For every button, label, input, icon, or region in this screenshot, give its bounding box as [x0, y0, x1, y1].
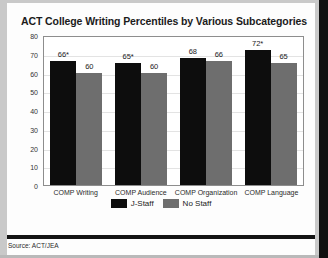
legend-label: J-Staff	[131, 199, 154, 208]
legend-swatch	[111, 199, 127, 208]
bar-j-staff[interactable]: 72*	[245, 50, 271, 185]
plot-canvas: 66*6065*60686672*65	[43, 36, 304, 186]
bar-value-label: 66*	[58, 50, 69, 59]
x-axis-label: COMP Organization	[174, 188, 239, 197]
chart-legend: J-StaffNo Staff	[7, 199, 315, 208]
bar-j-staff[interactable]: 65*	[115, 63, 141, 185]
bar-groups: 66*6065*60686672*65	[44, 37, 303, 185]
legend-swatch	[163, 199, 179, 208]
chart-title: ACT College Writing Percentiles by Vario…	[21, 15, 306, 27]
footer-divider	[7, 235, 315, 239]
bar-value-label: 60	[85, 62, 93, 71]
legend-item[interactable]: J-Staff	[111, 199, 154, 208]
bar-group: 66*60	[44, 37, 109, 185]
x-axis-label: COMP Language	[239, 188, 304, 197]
y-axis-tick: 20	[20, 145, 38, 152]
chart-card: ACT College Writing Percentiles by Vario…	[7, 3, 315, 255]
source-note: Source: ACT/JEA	[8, 242, 59, 249]
legend-item[interactable]: No Staff	[163, 199, 212, 208]
x-axis-labels: COMP WritingCOMP AudienceCOMP Organizati…	[43, 188, 304, 197]
bar-j-staff[interactable]: 68	[180, 58, 206, 186]
bar-group: 6866	[174, 37, 239, 185]
y-axis-tick: 60	[20, 70, 38, 77]
x-axis-label: COMP Audience	[108, 188, 173, 197]
bar-value-label: 60	[150, 62, 158, 71]
y-axis-tick: 70	[20, 51, 38, 58]
y-axis-tick: 10	[20, 164, 38, 171]
y-axis-tick: 30	[20, 126, 38, 133]
bar-group: 72*65	[238, 37, 303, 185]
legend-label: No Staff	[183, 199, 212, 208]
x-axis-label: COMP Writing	[43, 188, 108, 197]
y-axis-tick: 40	[20, 108, 38, 115]
y-axis-tick: 80	[20, 33, 38, 40]
y-axis: 01020304050607080	[21, 36, 41, 186]
bar-value-label: 65*	[122, 52, 133, 61]
y-axis-tick: 50	[20, 89, 38, 96]
bar-value-label: 68	[189, 47, 197, 56]
bar-j-staff[interactable]: 66*	[50, 61, 76, 185]
plot-area: 01020304050607080 66*6065*60686672*65 CO…	[21, 36, 304, 198]
bar-group: 65*60	[109, 37, 174, 185]
bar-value-label: 65	[279, 52, 287, 61]
bar-no-staff[interactable]: 66	[206, 61, 232, 185]
bar-no-staff[interactable]: 65	[271, 63, 297, 185]
bar-no-staff[interactable]: 60	[76, 73, 102, 186]
bar-no-staff[interactable]: 60	[141, 73, 167, 186]
y-axis-tick: 0	[20, 183, 38, 190]
scan-edge-artifact-right	[319, 0, 328, 258]
bar-value-label: 66	[215, 50, 223, 59]
bar-value-label: 72*	[252, 39, 263, 48]
